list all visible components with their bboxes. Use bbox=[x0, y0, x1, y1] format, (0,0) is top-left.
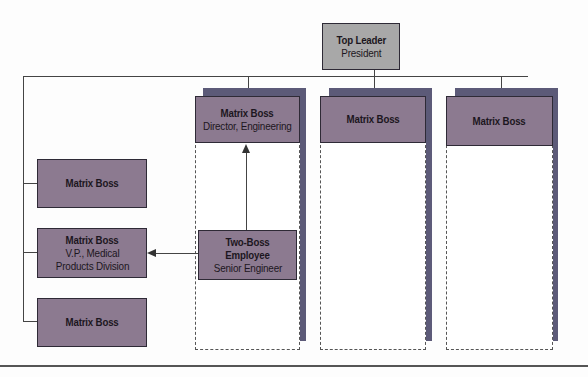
column-1-boss-title: Matrix Boss bbox=[221, 107, 274, 120]
column-1-boss-subtitle: Director, Engineering bbox=[203, 120, 292, 133]
left-boss-1-box: Matrix Boss bbox=[37, 159, 147, 208]
left-boss-2-box: Matrix Boss V.P., Medical Products Divis… bbox=[37, 228, 147, 278]
left-vertical-connector bbox=[23, 76, 24, 321]
column-2-boss-box: Matrix Boss bbox=[320, 96, 426, 143]
arrow-up-icon bbox=[242, 144, 250, 153]
left-boss-2-title: Matrix Boss bbox=[66, 234, 119, 247]
column-3-boss-title: Matrix Boss bbox=[473, 115, 526, 128]
employee-subtitle: Senior Engineer bbox=[213, 262, 281, 275]
left-boss-3-box: Matrix Boss bbox=[37, 298, 147, 347]
column-1-boss-box: Matrix Boss Director, Engineering bbox=[195, 96, 300, 143]
column-3-boss-box: Matrix Boss bbox=[446, 96, 553, 146]
employee-title: Two-Boss Employee bbox=[205, 236, 290, 262]
left-boss-3-title: Matrix Boss bbox=[66, 316, 119, 329]
bottom-rule bbox=[0, 365, 588, 367]
left-boss-2-subtitle: V.P., Medical Products Division bbox=[49, 247, 135, 273]
left-boss-1-title: Matrix Boss bbox=[66, 177, 119, 190]
left-boss-2-connector bbox=[23, 252, 37, 253]
column-2-boss-title: Matrix Boss bbox=[347, 113, 400, 126]
top-horizontal-connector bbox=[23, 76, 528, 77]
two-boss-employee-box: Two-Boss Employee Senior Engineer bbox=[198, 230, 297, 280]
top-leader-title: Top Leader bbox=[336, 34, 386, 47]
top-leader-box: Top Leader President bbox=[322, 23, 400, 70]
column-2-area bbox=[320, 140, 426, 350]
arrow-left-icon bbox=[147, 249, 156, 257]
left-boss-3-connector bbox=[23, 321, 37, 322]
left-boss-1-connector bbox=[23, 183, 37, 184]
employee-to-director-line bbox=[246, 152, 247, 230]
employee-to-vp-line bbox=[155, 253, 198, 254]
top-leader-subtitle: President bbox=[341, 47, 381, 60]
column-3-area bbox=[446, 140, 553, 350]
